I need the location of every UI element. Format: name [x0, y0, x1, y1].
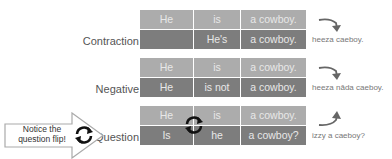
- cell-object: a cowboy.: [241, 10, 306, 29]
- callout-line-1: Notice the: [12, 124, 72, 134]
- cell-verb: He's: [194, 30, 240, 49]
- cell-subject: [140, 30, 193, 49]
- curve-down-arrow-icon: [316, 64, 346, 82]
- curve-up-arrow-icon: [316, 110, 346, 128]
- curve-down-arrow-icon: [316, 16, 346, 34]
- callout-text: Notice the question flip!: [12, 124, 72, 144]
- cell-object: a cowboy.: [241, 30, 306, 49]
- pronunciation: heeza nāda caeboy.: [312, 83, 383, 92]
- cell-object: a cowboy.: [241, 78, 306, 97]
- cell-verb: is: [194, 10, 240, 29]
- row-label: Negative: [96, 83, 139, 95]
- cell-object: a cowboy?: [241, 126, 306, 145]
- pronunciation: heeza caeboy.: [312, 35, 363, 44]
- cell-verb: is not: [194, 78, 240, 97]
- cell-subject: He: [140, 78, 193, 97]
- cell-subject: He: [140, 10, 193, 29]
- cycle-arrows-icon: [183, 115, 205, 135]
- callout-line-2: question flip!: [12, 134, 72, 144]
- row-label: Contraction: [83, 35, 139, 47]
- cell-object: a cowboy.: [241, 106, 306, 125]
- cell-object: a cowboy.: [241, 58, 306, 77]
- pronunciation: izzy a caeboy?: [312, 131, 365, 140]
- cell-subject: He: [140, 58, 193, 77]
- cycle-arrows-icon: [73, 125, 95, 145]
- cell-verb: is: [194, 58, 240, 77]
